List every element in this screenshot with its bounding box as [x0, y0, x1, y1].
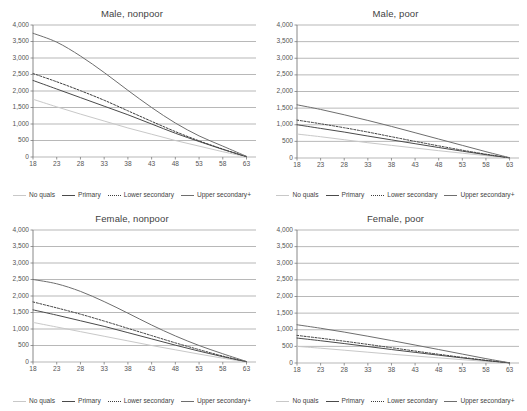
y-tick-label: 4,000 — [0, 22, 29, 29]
legend-item[interactable]: No quals — [276, 192, 318, 199]
x-tick-label: 28 — [70, 161, 90, 168]
series-line — [33, 33, 247, 156]
x-tick-label: 23 — [311, 367, 331, 374]
y-tick-label: 500 — [0, 137, 29, 144]
plot-area — [264, 0, 527, 206]
y-tick-label: 0 — [0, 359, 29, 366]
chart-panel: Female, nonpoor05001,0001,5002,0002,5003… — [0, 205, 264, 411]
y-tick-label: 1,500 — [0, 309, 29, 316]
series-line — [297, 325, 510, 363]
x-tick-label: 23 — [47, 366, 67, 373]
x-tick-label: 28 — [334, 367, 354, 374]
y-tick-label: 1,000 — [264, 326, 293, 333]
series-line — [33, 280, 247, 362]
x-tick-label: 33 — [358, 367, 378, 374]
y-tick-label: 3,000 — [264, 55, 293, 62]
y-tick-label: 500 — [0, 342, 29, 349]
legend-item[interactable]: Lower secondary — [108, 192, 174, 199]
legend-item[interactable]: Primary — [62, 398, 101, 405]
series-line — [297, 120, 510, 158]
legend-label: Lower secondary — [387, 192, 437, 199]
series-line — [33, 322, 247, 361]
x-tick-label: 18 — [23, 366, 43, 373]
y-tick-label: 3,000 — [0, 55, 29, 62]
legend-item[interactable]: Primary — [326, 398, 365, 405]
legend-item[interactable]: Upper secondary+ — [444, 192, 514, 199]
legend-label: Primary — [78, 192, 101, 199]
series-line — [297, 105, 510, 158]
y-tick-label: 3,000 — [0, 260, 29, 267]
legend-item[interactable]: Lower secondary — [108, 398, 174, 405]
x-tick-label: 38 — [381, 162, 401, 169]
legend-label: Primary — [342, 398, 365, 405]
x-tick-label: 63 — [500, 162, 520, 169]
x-tick-label: 28 — [334, 162, 354, 169]
legend-label: Upper secondary+ — [460, 192, 514, 199]
x-tick-label: 48 — [165, 366, 185, 373]
legend-item[interactable]: Upper secondary+ — [181, 398, 251, 405]
x-tick-label: 18 — [287, 162, 307, 169]
y-tick-label: 3,000 — [264, 260, 293, 267]
x-tick-label: 18 — [287, 367, 307, 374]
x-tick-label: 33 — [94, 366, 114, 373]
legend-item[interactable]: Lower secondary — [371, 398, 437, 405]
y-tick-label: 3,500 — [264, 38, 293, 45]
series-line — [33, 99, 247, 156]
legend-label: No quals — [29, 192, 55, 199]
y-tick-label: 500 — [264, 138, 293, 145]
legend-item[interactable]: No quals — [13, 192, 55, 199]
legend-label: Lower secondary — [124, 398, 174, 405]
legend-item[interactable]: No quals — [276, 398, 318, 405]
y-tick-label: 0 — [264, 360, 293, 367]
legend-label: Lower secondary — [124, 192, 174, 199]
series-line — [297, 134, 510, 158]
series-line — [33, 74, 247, 157]
x-tick-label: 53 — [452, 367, 472, 374]
x-tick-label: 53 — [189, 161, 209, 168]
x-tick-label: 58 — [213, 161, 233, 168]
x-tick-label: 48 — [429, 367, 449, 374]
chart-legend: No qualsPrimaryLower secondaryUpper seco… — [264, 398, 527, 405]
legend-label: Lower secondary — [387, 398, 437, 405]
legend-label: No quals — [292, 398, 318, 405]
y-tick-label: 4,000 — [264, 22, 293, 29]
y-tick-label: 1,500 — [264, 310, 293, 317]
y-tick-label: 1,000 — [264, 121, 293, 128]
y-tick-label: 500 — [264, 343, 293, 350]
x-tick-label: 38 — [381, 367, 401, 374]
x-tick-label: 23 — [311, 162, 331, 169]
x-tick-label: 43 — [142, 366, 162, 373]
legend-item[interactable]: Upper secondary+ — [444, 398, 514, 405]
x-tick-label: 33 — [94, 161, 114, 168]
chart-panel-grid: Male, nonpoor05001,0001,5002,0002,5003,0… — [0, 0, 527, 411]
chart-legend: No qualsPrimaryLower secondaryUpper seco… — [0, 398, 264, 405]
legend-item[interactable]: Primary — [62, 192, 101, 199]
x-tick-label: 28 — [70, 366, 90, 373]
x-tick-label: 43 — [405, 162, 425, 169]
x-tick-label: 63 — [500, 367, 520, 374]
y-tick-label: 2,000 — [264, 88, 293, 95]
legend-label: Primary — [342, 192, 365, 199]
x-tick-label: 23 — [47, 161, 67, 168]
series-line — [33, 302, 247, 362]
legend-item[interactable]: Upper secondary+ — [181, 192, 251, 199]
legend-item[interactable]: No quals — [13, 398, 55, 405]
plot-area — [0, 205, 264, 410]
x-tick-label: 48 — [429, 162, 449, 169]
x-tick-label: 53 — [189, 366, 209, 373]
legend-label: Primary — [78, 398, 101, 405]
x-tick-label: 63 — [237, 366, 257, 373]
legend-item[interactable]: Lower secondary — [371, 192, 437, 199]
legend-item[interactable]: Primary — [326, 192, 365, 199]
y-tick-label: 4,000 — [264, 227, 293, 234]
legend-label: Upper secondary+ — [197, 192, 251, 199]
y-tick-label: 3,500 — [0, 243, 29, 250]
x-tick-label: 33 — [358, 162, 378, 169]
chart-panel: Male, poor05001,0001,5002,0002,5003,0003… — [264, 0, 527, 205]
y-tick-label: 1,000 — [0, 121, 29, 128]
x-tick-label: 63 — [237, 161, 257, 168]
y-tick-label: 2,500 — [264, 276, 293, 283]
x-tick-label: 53 — [452, 162, 472, 169]
x-tick-label: 38 — [118, 366, 138, 373]
legend-label: Upper secondary+ — [460, 398, 514, 405]
